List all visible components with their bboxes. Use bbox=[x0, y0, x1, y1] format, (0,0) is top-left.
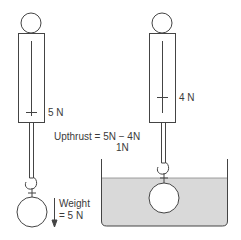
right-ring-icon bbox=[152, 13, 172, 33]
weight-arrow-head-icon bbox=[52, 220, 57, 227]
left-reading-label: 5 N bbox=[48, 107, 64, 118]
right-reading-label: 4 N bbox=[179, 92, 195, 103]
weight-label: Weight bbox=[59, 198, 90, 209]
left-spring-balance bbox=[17, 13, 57, 227]
upthrust-result-label: 1N bbox=[116, 142, 129, 153]
upthrust-diagram bbox=[0, 0, 241, 240]
right-hook-icon bbox=[157, 162, 168, 174]
left-hook-icon bbox=[25, 177, 36, 189]
left-ring-icon bbox=[21, 13, 41, 33]
left-object-ball bbox=[17, 197, 47, 227]
weight-value-label: = 5 N bbox=[59, 210, 83, 221]
right-object-ball bbox=[149, 183, 179, 213]
upthrust-label: Upthrust = 5N − 4N bbox=[54, 131, 140, 142]
